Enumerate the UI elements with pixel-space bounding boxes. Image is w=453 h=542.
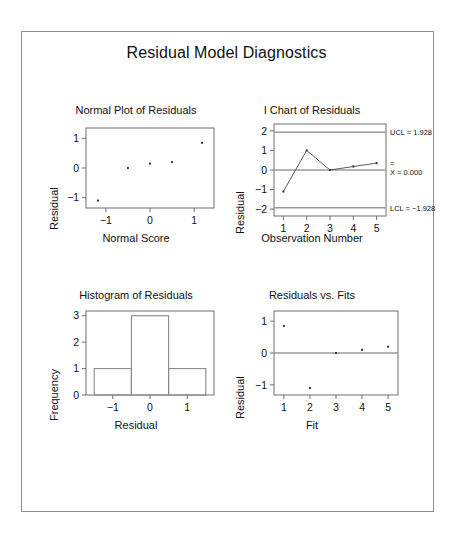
plot-frame — [86, 128, 214, 208]
y-tick-label: 0 — [261, 164, 267, 176]
plot-histogram: −1010123 — [46, 289, 226, 409]
data-point — [361, 349, 363, 351]
x-tick-label: 0 — [147, 214, 153, 226]
x-tick-label: 1 — [184, 401, 190, 413]
data-point — [149, 163, 151, 165]
panel-normal-plot: Normal Plot of Residuals Residual Normal… — [46, 104, 226, 254]
panel-i-chart: I Chart of Residuals Residual Observatio… — [232, 104, 428, 254]
x-tick-label: 5 — [385, 401, 391, 413]
data-point — [306, 149, 308, 151]
y-tick-label: −1 — [255, 183, 267, 195]
data-point — [127, 167, 129, 169]
page-title: Residual Model Diagnostics — [0, 44, 453, 62]
axis-label-x-i-chart: Observation Number — [232, 232, 392, 244]
axis-label-y-histogram: Frequency — [48, 369, 60, 421]
data-point — [329, 169, 331, 171]
axis-label-x-residuals-vs-fits: Fit — [232, 419, 392, 431]
x-tick-label: 2 — [307, 401, 313, 413]
plot-i-chart: 12345−2−1012UCL = 1.928=X = 0.000LCL = −… — [232, 104, 428, 224]
data-point — [309, 387, 311, 389]
y-tick-label: 1 — [261, 144, 267, 156]
histogram-bar — [131, 316, 168, 395]
x-tick-label: 1 — [281, 401, 287, 413]
x-tick-label: 3 — [333, 401, 339, 413]
y-tick-label: 0 — [73, 389, 79, 401]
y-tick-label: 1 — [73, 362, 79, 374]
data-point — [387, 346, 389, 348]
y-tick-label: 0 — [261, 347, 267, 359]
y-tick-label: 1 — [261, 315, 267, 327]
y-tick-label: −1 — [67, 191, 79, 203]
panel-residuals-vs-fits: Residuals vs. Fits Residual Fit 12345−10… — [232, 289, 428, 444]
x-tick-label: −1 — [107, 401, 119, 413]
data-point — [282, 191, 284, 193]
plot-normal-plot: −101−101 — [46, 104, 226, 224]
histogram-bar — [169, 369, 206, 395]
x-tick-label: 0 — [147, 401, 153, 413]
panel-histogram: Histogram of Residuals Frequency Residua… — [46, 289, 226, 444]
data-point — [201, 142, 203, 144]
panel-title-residuals-vs-fits: Residuals vs. Fits — [232, 289, 392, 301]
data-point — [335, 352, 337, 354]
data-point — [352, 165, 354, 167]
data-point — [97, 200, 99, 202]
axis-label-y-normal-plot: Residual — [48, 187, 60, 230]
center-overbar: = — [390, 159, 395, 168]
lcl-label: LCL = −1.928 — [390, 204, 435, 213]
data-point — [171, 161, 173, 163]
data-point — [376, 162, 378, 164]
data-point — [283, 325, 285, 327]
axis-label-y-residuals-vs-fits: Residual — [234, 376, 246, 419]
axis-label-x-histogram: Residual — [46, 419, 226, 431]
axis-label-y-i-chart: Residual — [234, 191, 246, 234]
panel-title-normal-plot: Normal Plot of Residuals — [46, 104, 226, 116]
figure-page: Residual Model Diagnostics Normal Plot o… — [0, 0, 453, 542]
y-tick-label: 2 — [261, 125, 267, 137]
y-tick-label: −2 — [255, 203, 267, 215]
x-tick-label: 4 — [359, 401, 365, 413]
y-tick-label: 0 — [73, 162, 79, 174]
x-tick-label: 1 — [191, 214, 197, 226]
plot-frame — [86, 311, 214, 395]
y-tick-label: 3 — [73, 309, 79, 321]
y-tick-label: −1 — [255, 379, 267, 391]
axis-label-x-normal-plot: Normal Score — [46, 232, 226, 244]
y-tick-label: 2 — [73, 336, 79, 348]
histogram-bar — [94, 369, 131, 395]
panel-title-i-chart: I Chart of Residuals — [232, 104, 392, 116]
ucl-label: UCL = 1.928 — [390, 128, 432, 137]
y-tick-label: 1 — [73, 132, 79, 144]
panel-title-histogram: Histogram of Residuals — [46, 289, 226, 301]
x-tick-label: −1 — [100, 214, 112, 226]
center-label: X = 0.000 — [390, 168, 422, 177]
plot-residuals-vs-fits: 12345−101 — [232, 289, 428, 409]
